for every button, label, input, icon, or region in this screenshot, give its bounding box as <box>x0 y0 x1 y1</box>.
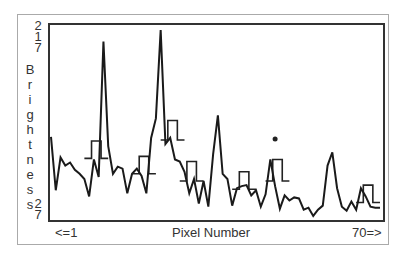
chart-canvas <box>0 0 404 256</box>
marker-dot <box>273 136 278 141</box>
step-window <box>84 141 108 158</box>
brightness-line <box>51 30 380 216</box>
